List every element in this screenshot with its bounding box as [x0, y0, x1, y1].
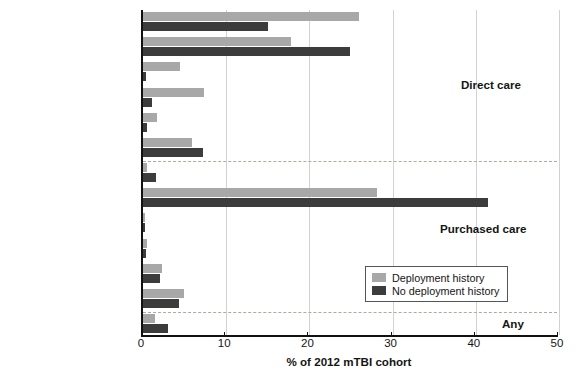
bar-no-deployment-history [143, 173, 156, 182]
x-tick-label: 20 [301, 337, 314, 349]
bar-deployment-history [143, 62, 180, 71]
bar-deployment-history [143, 289, 184, 298]
bar-no-deployment-history [143, 98, 152, 107]
bar-no-deployment-history [143, 249, 146, 258]
section-note-any: Any [502, 317, 524, 330]
x-axis-label: % of 2012 mTBI cohort [141, 355, 557, 368]
section-note-direct-care: Direct care [461, 78, 521, 91]
legend-swatch-icon-no-deployment-history [372, 286, 386, 295]
gridline [559, 10, 560, 335]
bar-no-deployment-history [143, 148, 203, 157]
x-tick-mark [474, 332, 475, 337]
bar-no-deployment-history [143, 324, 168, 333]
bar-deployment-history [143, 37, 291, 46]
bar-chart: Primary care**Emergency department**Beha… [0, 0, 587, 377]
x-tick-mark [307, 332, 308, 337]
x-tick-label: 10 [218, 337, 231, 349]
bar-group [143, 35, 557, 60]
legend-label-deployment-history: Deployment history [392, 272, 484, 284]
bar-group [143, 236, 557, 261]
section-divider [143, 312, 557, 313]
x-tick-label: 30 [384, 337, 397, 349]
bar-no-deployment-history [143, 198, 488, 207]
bar-deployment-history [143, 239, 147, 248]
x-tick-label: 40 [467, 337, 480, 349]
bar-no-deployment-history [143, 299, 179, 308]
bar-no-deployment-history [143, 274, 160, 283]
bar-no-deployment-history [143, 72, 146, 81]
x-axis-ticks: 01020304050 [141, 337, 557, 353]
bar-no-deployment-history [143, 22, 268, 31]
legend-item-deployment-history: Deployment history [372, 271, 499, 284]
legend-swatch-icon-deployment-history [372, 273, 386, 282]
x-tick-mark [391, 332, 392, 337]
bar-group [143, 186, 557, 211]
bar-deployment-history [143, 88, 204, 97]
bar-group [143, 10, 557, 35]
legend: Deployment history No deployment history [365, 266, 508, 302]
bar-deployment-history [143, 113, 157, 122]
bar-no-deployment-history [143, 223, 145, 232]
section-note-purchased-care: Purchased care [440, 222, 526, 235]
legend-item-no-deployment-history: No deployment history [372, 284, 499, 297]
bar-deployment-history [143, 213, 145, 222]
bar-deployment-history [143, 314, 155, 323]
bar-group [143, 161, 557, 186]
bar-group [143, 111, 557, 136]
bar-group [143, 136, 557, 161]
bar-group [143, 312, 557, 337]
x-tick-mark [224, 332, 225, 337]
bar-no-deployment-history [143, 123, 147, 132]
x-tick-mark [141, 332, 142, 337]
x-tick-mark [557, 332, 558, 337]
bar-no-deployment-history [143, 47, 350, 56]
bar-deployment-history [143, 12, 359, 21]
x-tick-label: 50 [551, 337, 564, 349]
bar-deployment-history [143, 138, 192, 147]
bar-deployment-history [143, 264, 162, 273]
legend-label-no-deployment-history: No deployment history [392, 285, 499, 297]
bar-deployment-history [143, 188, 377, 197]
section-divider [143, 161, 557, 162]
x-tick-label: 0 [138, 337, 144, 349]
bar-deployment-history [143, 163, 147, 172]
